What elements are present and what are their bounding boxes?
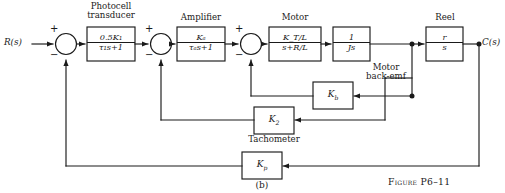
figure-caption: Figure P6–11 — [388, 176, 450, 187]
tf-photocell-numerator: 0.5K₁ — [87, 33, 135, 42]
sign-minus-tachometer-loop: − — [145, 50, 153, 61]
tf-amplifier: Kₐ τₐs+1 — [177, 33, 225, 52]
tf-reel-numerator: r — [426, 33, 463, 42]
tf-inertia-denominator: Js — [333, 42, 370, 52]
tf-amplifier-denominator: τₐs+1 — [177, 42, 225, 52]
node-output — [477, 42, 482, 47]
gain-label-back-emf: Kb — [313, 89, 353, 101]
summing-junction-back-emf-loop — [241, 34, 262, 55]
sign-minus-outer-loop: − — [50, 50, 58, 61]
label-input-signal: R(s) — [4, 38, 22, 47]
node-backemf-tap — [410, 94, 415, 99]
tf-inertia-numerator: 1 — [333, 33, 370, 42]
sign-plus-tachometer-loop: + — [145, 24, 153, 35]
tf-photocell-denominator: τ₁s+1 — [87, 42, 135, 52]
label-output-signal: C(s) — [482, 38, 500, 47]
tf-reel-denominator: s — [426, 42, 463, 52]
node-motor-speed — [410, 42, 415, 47]
label-tachometer: Tachometer — [238, 135, 310, 144]
sign-plus-back-emf-loop: + — [235, 24, 243, 35]
panel-label: (b) — [232, 180, 292, 190]
sign-minus-back-emf-loop: − — [235, 50, 243, 61]
tf-motor-numerator: K_T/L — [269, 33, 321, 42]
summing-junction-tachometer-loop — [151, 34, 172, 55]
summing-junction-outer-loop — [56, 34, 77, 55]
label-photocell-transducer: Photocell transducer — [73, 2, 149, 20]
tf-motor-denominator: s+R/L — [269, 42, 321, 52]
label-reel: Reel — [407, 13, 483, 22]
label-amplifier: Amplifier — [163, 13, 239, 22]
tf-motor: K_T/L s+R/L — [269, 33, 321, 52]
tf-reel: r s — [426, 33, 463, 52]
label-motor-back-emf: Motor back-emf — [356, 63, 416, 81]
label-motor: Motor — [257, 13, 333, 22]
tf-amplifier-numerator: Kₐ — [177, 33, 225, 42]
tf-photocell: 0.5K₁ τ₁s+1 — [87, 33, 135, 52]
gain-label-position: Kp — [242, 159, 282, 171]
tf-inertia: 1 Js — [333, 33, 370, 52]
sign-plus-outer-loop: + — [50, 24, 58, 35]
gain-label-tachometer: K2 — [254, 114, 294, 126]
